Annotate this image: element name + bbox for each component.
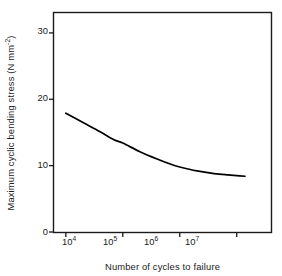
data-curve-s-n: [66, 113, 245, 176]
plot-area: [0, 0, 282, 276]
x-axis-label: Number of cycles to failure: [53, 256, 272, 274]
chart-figure: Maximum cyclic bending stress (N mm-2) 3…: [0, 0, 282, 276]
x-axis-label-text: Number of cycles to failure: [105, 261, 220, 272]
axes-frame: [54, 13, 272, 233]
